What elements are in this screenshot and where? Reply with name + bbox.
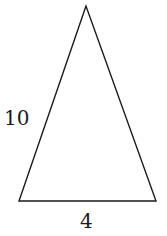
triangle-diagram: 10 4 — [0, 0, 167, 236]
left-side-length-label: 10 — [4, 106, 29, 130]
triangle-shape — [19, 6, 156, 201]
base-length-label: 4 — [80, 209, 93, 233]
